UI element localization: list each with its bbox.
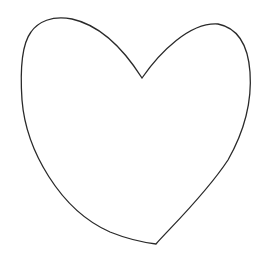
heart-path [21,18,250,244]
heart-canvas [0,0,264,261]
heart-outline-icon [0,0,264,261]
